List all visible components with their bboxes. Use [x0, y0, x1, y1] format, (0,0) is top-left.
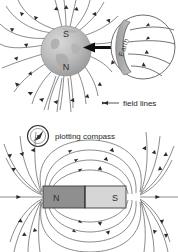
magnetic-field-figure: S N Earth	[0, 0, 178, 252]
globe-south-pole-label: S	[63, 29, 69, 39]
magnet-north-label: N	[53, 193, 60, 203]
magnet-south-half	[85, 186, 126, 208]
bar-magnet: N S	[43, 186, 126, 208]
magnet-south-label: S	[112, 193, 118, 203]
field-lines-label: field lines	[123, 99, 156, 108]
earth-inset-magnifier: Earth	[111, 15, 175, 79]
earth-globe: S N	[41, 26, 91, 76]
globe-north-pole-label: N	[63, 62, 70, 72]
plotting-compass-label: plotting compass	[55, 132, 115, 141]
magnet-north-half	[43, 186, 85, 208]
